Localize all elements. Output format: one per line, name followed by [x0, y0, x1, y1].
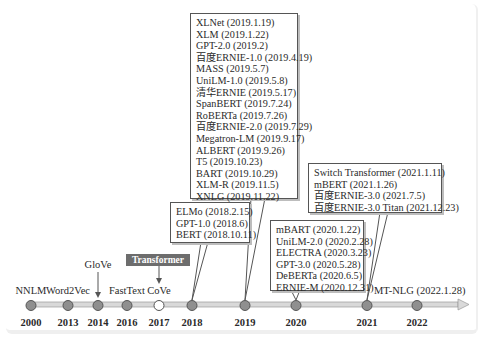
year-label: 2020	[286, 317, 307, 328]
callout-2021: Switch Transformer (2021.1.11) mBERT (20…	[308, 163, 442, 213]
node-2014	[93, 300, 104, 311]
label-nnlm: NNLM	[16, 285, 47, 296]
model-entry: Switch Transformer (2021.1.11)	[314, 167, 436, 179]
callout-2019: XLNet (2019.1.19) XLM (2019.1.22) GPT-2.…	[190, 13, 298, 199]
callout-2020: mBART (2020.1.22) UniLM-2.0 (2020.2.28) …	[270, 220, 364, 291]
year-label: 2000	[21, 317, 42, 328]
model-entry: GPT-1.0 (2018.6)	[176, 218, 244, 230]
model-entry: GPT-3.0 (2020.5.28)	[276, 259, 358, 271]
transformer-badge: Transformer	[126, 254, 190, 266]
model-entry: MASS (2019.5.7)	[196, 63, 292, 75]
node-2017	[154, 300, 165, 311]
year-label: 2021	[357, 317, 378, 328]
node-2013	[63, 300, 74, 311]
model-entry: T5 (2019.10.23)	[196, 156, 292, 168]
model-entry: ELMo (2018.2.15)	[176, 206, 244, 218]
label-mt-nlg: MT-NLG (2022.1.28)	[374, 285, 465, 296]
model-entry: RoBERTa (2019.7.26)	[196, 110, 292, 122]
year-label: 2014	[88, 317, 109, 328]
node-2021	[362, 300, 373, 311]
model-entry: 百度ERNIE-2.0 (2019.7.29)	[196, 121, 292, 133]
model-entry: mBERT (2021.1.26)	[314, 179, 436, 191]
model-entry: XNLG (2019.11.22)	[196, 191, 292, 203]
model-entry: XLM (2019.1.22)	[196, 29, 292, 41]
year-label: 2017	[149, 317, 170, 328]
model-entry: GPT-2.0 (2019.2)	[196, 40, 292, 52]
node-2019	[240, 300, 251, 311]
model-entry: 百度ERNIE-3.0 Titan (2021.12.23)	[314, 202, 436, 214]
model-entry: BERT (2018.10.11)	[176, 229, 244, 241]
label-word2vec: Word2Vec	[46, 285, 90, 296]
model-entry: XLNet (2019.1.19)	[196, 17, 292, 29]
model-entry: XLM-R (2019.11.5)	[196, 179, 292, 191]
label-glove: GloVe	[85, 259, 112, 270]
year-label: 2013	[58, 317, 79, 328]
label-cove: CoVe	[147, 285, 170, 296]
model-entry: Megatron-LM (2019.9.17)	[196, 133, 292, 145]
model-entry: BART (2019.10.29)	[196, 168, 292, 180]
model-entry: mBART (2020.1.22)	[276, 224, 358, 236]
model-entry: UniLM-2.0 (2020.2.28)	[276, 236, 358, 248]
year-label: 2016	[117, 317, 138, 328]
model-entry: DeBERTa (2020.6.5)	[276, 270, 358, 282]
model-entry: ERNIE-M (2020.12.31)	[276, 282, 358, 294]
year-label: 2018	[182, 317, 203, 328]
node-2022	[412, 300, 423, 311]
node-2018	[187, 300, 198, 311]
year-label: 2022	[407, 317, 428, 328]
model-entry: ELECTRA (2020.3.23)	[276, 247, 358, 259]
callout-2018: ELMo (2018.2.15) GPT-1.0 (2018.6) BERT (…	[170, 202, 250, 243]
node-2000	[26, 300, 37, 311]
model-entry: 百度ERNIE-1.0 (2019.4.19)	[196, 52, 292, 64]
model-entry: ALBERT (2019.9.26)	[196, 145, 292, 157]
year-label: 2019	[235, 317, 256, 328]
model-entry: SpanBERT (2019.7.24)	[196, 98, 292, 110]
label-fasttext: FastText	[109, 285, 145, 296]
node-2020	[291, 300, 302, 311]
model-entry: 百度ERNIE-3.0 (2021.7.5)	[314, 190, 436, 202]
model-entry: 清华ERNIE (2019.5.17)	[196, 87, 292, 99]
node-2016	[122, 300, 133, 311]
model-entry: UniLM-1.0 (2019.5.8)	[196, 75, 292, 87]
